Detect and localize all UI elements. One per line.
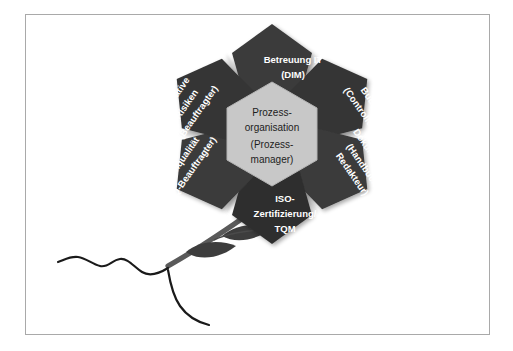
label-iso-line-1: Zertifizierung/ <box>254 208 317 219</box>
center-line-2: (Prozess- <box>251 139 294 150</box>
center-line-0: Prozess- <box>252 107 291 118</box>
label-iso-line-0: ISO- <box>275 193 295 204</box>
center-line-1: organisation <box>245 122 299 133</box>
label-iso-line-2: TQM <box>274 223 295 234</box>
diagram-canvas: Betreuung IT (DIM) Budget (Controller) D… <box>0 0 513 351</box>
flower-diagram-svg: Betreuung IT (DIM) Budget (Controller) D… <box>0 0 513 351</box>
root-down <box>168 270 209 325</box>
center-line-3: manager) <box>251 154 294 165</box>
label-betreuung-it-line-1: (DIM) <box>281 69 305 80</box>
label-betreuung-it-line-0: Betreuung IT <box>264 54 323 65</box>
root-left <box>58 257 168 274</box>
leaf-lower-left <box>186 242 236 257</box>
